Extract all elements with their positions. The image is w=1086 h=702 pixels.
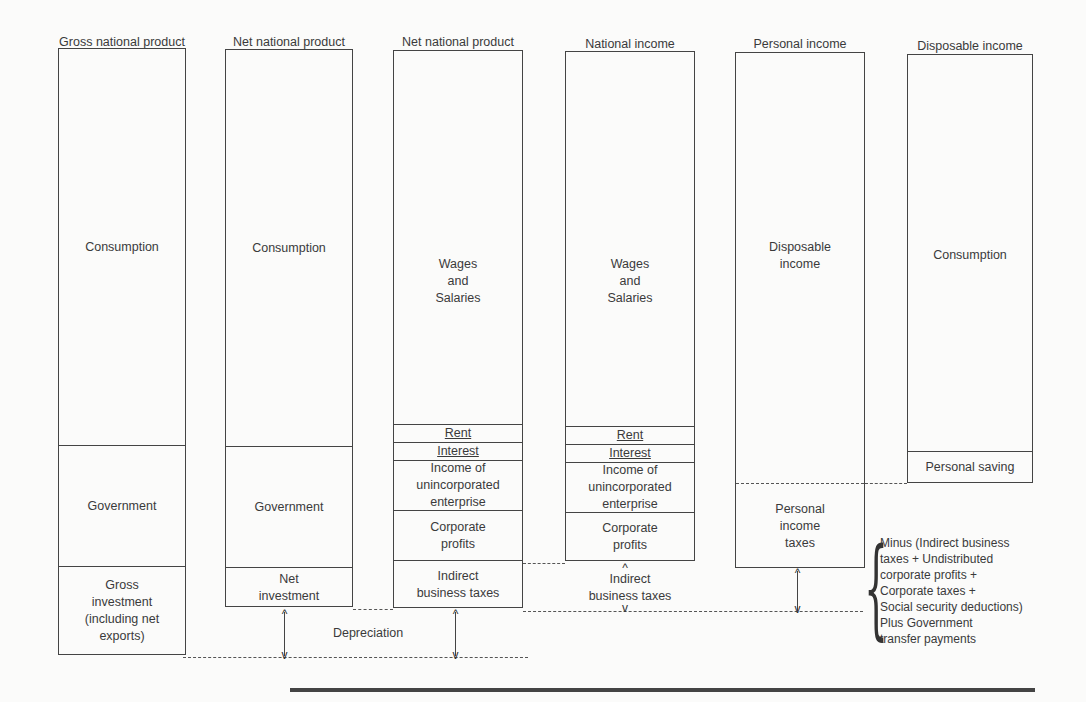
dashed-line-personal-saving — [865, 483, 907, 484]
segment-consumption: Consumption — [59, 49, 185, 445]
column-title-nnp: Net national product — [225, 35, 353, 49]
column-gnp: Consumption Government Gross investment … — [58, 48, 186, 655]
segment-disposable-income: Disposable income — [736, 53, 864, 483]
column-title-gnp: Gross national product — [58, 35, 186, 49]
segment-net-investment: Net investment — [226, 567, 352, 607]
segment-rent: Rent — [566, 426, 694, 444]
arrow-up-icon: ^ — [453, 609, 459, 619]
segment-rent: Rent — [394, 424, 522, 442]
segment-government: Government — [226, 446, 352, 567]
segment-corporate-profits: Corporate profits — [566, 512, 694, 561]
column-personal-income: Disposable income Personal income taxes — [735, 52, 865, 568]
dashed-line-national-income-bottom — [523, 611, 863, 612]
arrow-up-icon: ^ — [282, 609, 288, 619]
label-indirect-business-taxes: Indirect business taxes — [575, 571, 685, 605]
segment-wages-salaries: Wages and Salaries — [566, 52, 694, 426]
segment-corporate-profits: Corporate profits — [394, 510, 522, 560]
arrow-down-icon: v — [795, 604, 801, 614]
segment-consumption: Consumption — [908, 55, 1032, 451]
arrow-down-icon: v — [622, 603, 628, 613]
segment-consumption: Consumption — [226, 50, 352, 446]
arrow-up-icon: ^ — [795, 568, 801, 578]
dashed-line-indirect-taxes-top — [523, 563, 565, 564]
segment-wages-salaries: Wages and Salaries — [394, 51, 522, 424]
segment-personal-saving: Personal saving — [908, 451, 1032, 483]
segment-unincorporated-income: Income of unincorporated enterprise — [394, 460, 522, 510]
adjustment-note: Minus (Indirect business taxes + Undistr… — [880, 535, 1023, 647]
arrow-down-icon: v — [453, 650, 459, 660]
column-nnp: Consumption Government Net investment — [225, 49, 353, 607]
column-title-nnp-income: Net national product — [393, 35, 523, 49]
label-depreciation: Depreciation — [318, 625, 418, 642]
segment-interest: Interest — [566, 444, 694, 462]
column-title-national-income: National income — [565, 37, 695, 51]
segment-government: Government — [59, 445, 185, 566]
dashed-line-gnp-bottom — [183, 657, 528, 658]
column-title-personal-income: Personal income — [735, 37, 865, 51]
column-nnp-income: Wages and Salaries Rent Interest Income … — [393, 50, 523, 608]
dashed-line-nnp-bottom — [353, 609, 393, 610]
segment-unincorporated-income: Income of unincorporated enterprise — [566, 462, 694, 512]
column-title-disposable-income: Disposable income — [907, 39, 1033, 53]
column-national-income: Wages and Salaries Rent Interest Income … — [565, 51, 695, 561]
segment-interest: Interest — [394, 442, 522, 460]
segment-gross-investment: Gross investment (including net exports) — [59, 566, 185, 654]
segment-personal-income-taxes: Personal income taxes — [736, 483, 864, 568]
column-disposable-income: Consumption Personal saving — [907, 54, 1033, 483]
segment-indirect-business-taxes: Indirect business taxes — [394, 560, 522, 608]
arrow-down-icon: v — [282, 650, 288, 660]
bottom-rule — [290, 688, 1035, 692]
